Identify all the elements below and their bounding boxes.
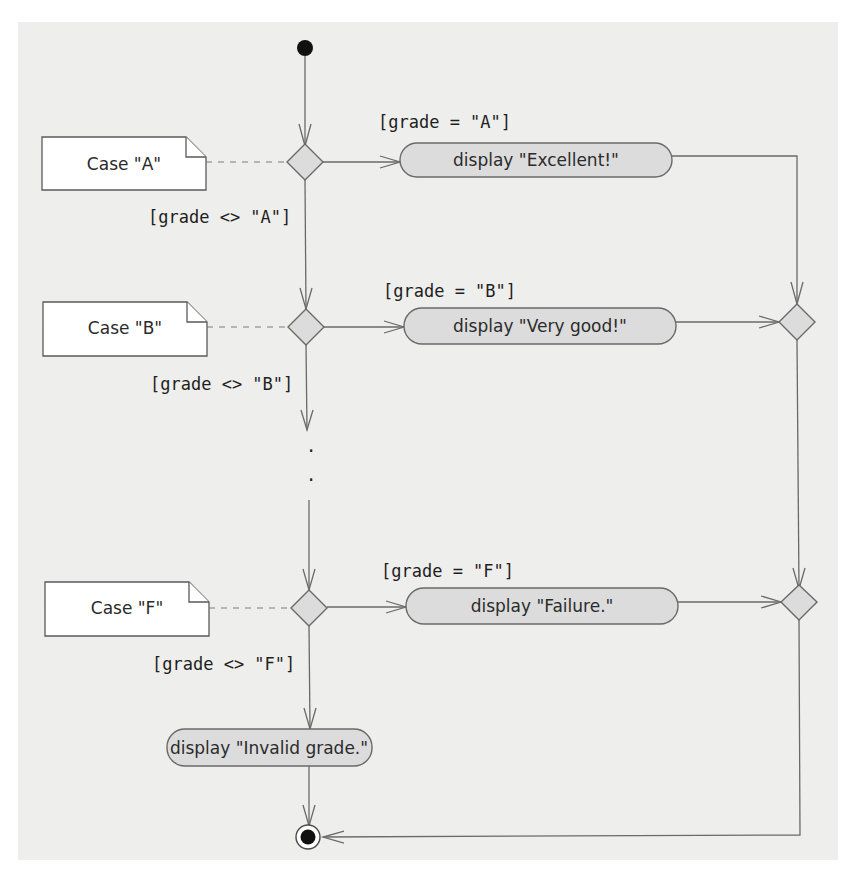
initial-node — [297, 40, 313, 56]
guard-grade-eq-a: [grade = "A"] — [378, 112, 511, 132]
guard-grade-neq-a: [grade <> "A"] — [148, 207, 291, 227]
action-failure-label: display "Failure." — [471, 596, 614, 616]
guard-grade-eq-b: [grade = "B"] — [383, 281, 516, 301]
action-excellent-label: display "Excellent!" — [453, 150, 619, 170]
guard-grade-eq-f: [grade = "F"] — [381, 561, 514, 581]
activity-diagram: Case "A" [grade = "A"] display "Excellen… — [0, 0, 852, 877]
ellipsis-dot-2: . — [306, 465, 316, 485]
note-case-a-label: Case "A" — [87, 154, 161, 174]
note-case-f-label: Case "F" — [91, 598, 163, 618]
ellipsis-dot-1: . — [306, 436, 316, 456]
note-case-b-label: Case "B" — [88, 318, 162, 338]
guard-grade-neq-b: [grade <> "B"] — [150, 374, 293, 394]
final-node-dot — [301, 830, 316, 845]
action-invalid-grade-label: display "Invalid grade." — [170, 738, 368, 758]
action-very-good-label: display "Very good!" — [453, 316, 627, 336]
final-node — [296, 825, 320, 849]
guard-grade-neq-f: [grade <> "F"] — [152, 654, 295, 674]
default-group: display "Invalid grade." — [167, 729, 372, 766]
